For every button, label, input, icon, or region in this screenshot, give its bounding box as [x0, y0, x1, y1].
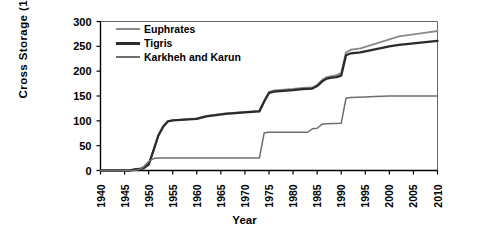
- y-axis-tick-label: 300: [60, 17, 92, 27]
- legend-line-swatch: [116, 28, 140, 30]
- y-axis-tick-label: 150: [60, 91, 92, 101]
- x-axis-tick-label: 2000: [383, 179, 395, 213]
- y-axis-tick-label: 0: [60, 166, 92, 176]
- x-axis-tick-label: 1955: [167, 179, 179, 213]
- x-axis-tick-label: 2010: [432, 179, 444, 213]
- legend-line-swatch: [116, 42, 140, 45]
- x-axis-tick-label: 2005: [407, 179, 419, 213]
- y-axis-tick-label: 200: [60, 66, 92, 76]
- legend-label: Tigris: [144, 38, 172, 49]
- x-axis-tick-label: 1950: [143, 179, 155, 213]
- x-axis-tick-label: 1940: [95, 179, 107, 213]
- series-line-karkheh-and-karun: [101, 96, 438, 171]
- legend-item[interactable]: Tigris: [116, 36, 241, 50]
- legend: EuphratesTigrisKarkheh and Karun: [116, 22, 241, 64]
- x-axis-tick-label: 1960: [191, 179, 203, 213]
- legend-item[interactable]: Euphrates: [116, 22, 241, 36]
- y-axis-tick-label: 250: [60, 41, 92, 51]
- x-axis-tick-label: 1980: [287, 179, 299, 213]
- y-axis-tick-label: 50: [60, 141, 92, 151]
- legend-label: Karkheh and Karun: [144, 52, 241, 63]
- x-axis-tick-label: 1990: [335, 179, 347, 213]
- legend-line-swatch: [116, 56, 140, 58]
- legend-label: Euphrates: [144, 24, 195, 35]
- x-axis-tick-label: 1985: [311, 179, 323, 213]
- y-axis-tick-label: 100: [60, 116, 92, 126]
- legend-item[interactable]: Karkheh and Karun: [116, 50, 241, 64]
- x-axis-title: Year: [0, 214, 489, 226]
- x-axis-tick-label: 1965: [215, 179, 227, 213]
- chart-container: Cross Storage (109 m3) 05010015020025030…: [0, 0, 489, 236]
- x-axis-tick-label: 1995: [359, 179, 371, 213]
- x-axis-tick-label: 1945: [119, 179, 131, 213]
- x-axis-tick-label: 1975: [263, 179, 275, 213]
- x-axis-tick-label: 1970: [239, 179, 251, 213]
